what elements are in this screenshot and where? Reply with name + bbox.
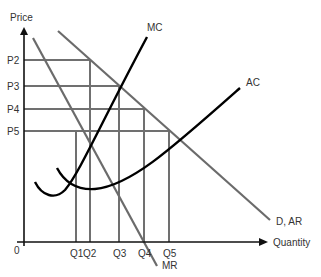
guide-lines (24, 60, 169, 242)
qty-label-q4: Q4 (138, 248, 152, 259)
axes (17, 34, 260, 246)
origin-label: 0 (14, 245, 20, 256)
demand-ar-label: D, AR (276, 216, 302, 227)
qty-label-q5: Q5 (163, 248, 177, 259)
price-label-p5: P5 (7, 126, 20, 137)
price-label-p3: P3 (7, 81, 20, 92)
ac-curve (57, 88, 240, 189)
mr-curve (33, 38, 157, 266)
mc-label: MC (147, 22, 163, 33)
x-axis-label: Quantity (273, 237, 310, 248)
qty-label-q2: Q2 (83, 248, 97, 259)
price-label-p4: P4 (7, 104, 20, 115)
mr-label: MR (162, 260, 178, 271)
y-axis-label: Price (10, 12, 33, 23)
ac-label: AC (246, 77, 260, 88)
monopoly-diagram: Price Quantity 0 P2 P3 P4 P5 Q1 Q2 Q3 Q4… (0, 0, 321, 277)
x-axis-arrow-icon (259, 238, 268, 246)
price-label-p2: P2 (7, 55, 20, 66)
y-axis-arrow-icon (20, 27, 28, 35)
qty-label-q1: Q1 (70, 248, 84, 259)
qty-label-q3: Q3 (113, 248, 127, 259)
